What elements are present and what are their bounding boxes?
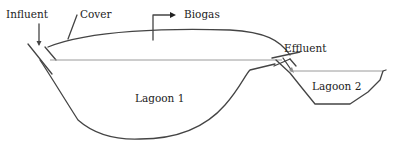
cover-dome	[48, 29, 290, 55]
biogas-arrow-icon	[153, 12, 176, 40]
influent-pipe	[28, 44, 56, 74]
biogas-label: Biogas	[184, 8, 220, 20]
lagoon2-label: Lagoon 2	[312, 80, 361, 92]
cover-label: Cover	[80, 8, 113, 20]
lagoon-diagram: Influent Cover Biogas Effluent Lagoon 1 …	[0, 0, 407, 147]
influent-label: Influent	[6, 8, 49, 20]
effluent-pipe	[272, 52, 300, 66]
effluent-label: Effluent	[284, 42, 327, 54]
influent-arrow-icon	[37, 24, 42, 46]
cover-leader	[68, 15, 77, 39]
lagoon1-label: Lagoon 1	[135, 92, 184, 104]
